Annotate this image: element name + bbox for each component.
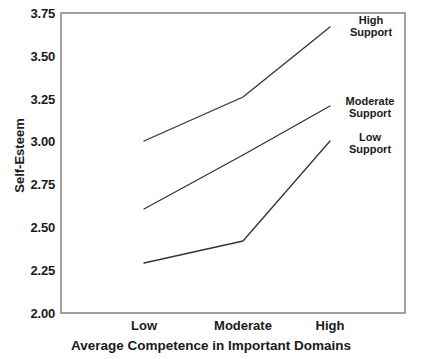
series-label-moderate-support-line1: Moderate bbox=[330, 95, 410, 107]
series-line-high-support bbox=[144, 27, 330, 141]
series-line-low-support bbox=[144, 141, 330, 263]
y-tick-label-3-25: 3.25 bbox=[0, 92, 55, 107]
series-label-high-support: High Support bbox=[336, 14, 406, 39]
x-tick-label-high: High bbox=[295, 318, 365, 333]
y-tick-label-2-75: 2.75 bbox=[0, 177, 55, 192]
chart-canvas bbox=[0, 0, 422, 359]
y-tick-label-3-00: 3.00 bbox=[0, 134, 55, 149]
series-label-low-support-line2: Support bbox=[334, 143, 406, 155]
self-esteem-line-chart: 3.75 3.50 3.25 3.00 2.75 2.50 2.25 2.00 … bbox=[0, 0, 422, 359]
y-tick-label-3-75: 3.75 bbox=[0, 6, 55, 21]
series-label-moderate-support-line2: Support bbox=[330, 107, 410, 119]
x-axis-title: Average Competence in Important Domains bbox=[0, 338, 422, 353]
x-tick-label-moderate: Moderate bbox=[198, 318, 288, 333]
series-line-moderate-support bbox=[144, 106, 330, 209]
y-tick-label-3-50: 3.50 bbox=[0, 49, 55, 64]
y-axis-title: Self-Esteem bbox=[12, 101, 27, 211]
series-label-low-support-line1: Low bbox=[334, 131, 406, 143]
plot-frame bbox=[61, 13, 405, 313]
series-label-high-support-line2: Support bbox=[336, 26, 406, 38]
y-tick-label-2-25: 2.25 bbox=[0, 263, 55, 278]
y-tick-label-2-00: 2.00 bbox=[0, 306, 55, 321]
series-label-moderate-support: Moderate Support bbox=[330, 95, 410, 120]
series-label-high-support-line1: High bbox=[336, 14, 406, 26]
y-tick-label-2-50: 2.50 bbox=[0, 220, 55, 235]
series-label-low-support: Low Support bbox=[334, 131, 406, 156]
x-tick-label-low: Low bbox=[109, 318, 179, 333]
